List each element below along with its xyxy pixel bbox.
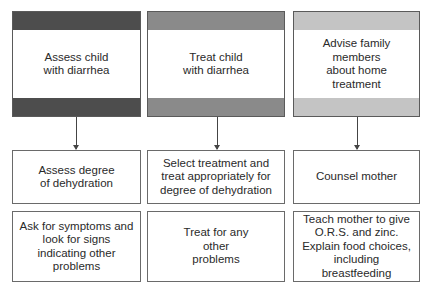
header-text: Treat child with diarrhea	[148, 30, 284, 98]
step-box-assess-dehydration: Assess degree of dehydration	[12, 150, 141, 204]
header-bottom-bar	[148, 98, 284, 116]
step-box-counsel-mother: Counsel mother	[293, 150, 420, 204]
step-box-select-treatment: Select treatment and treat appropriately…	[147, 150, 285, 204]
arrow-down	[76, 117, 77, 149]
header-bottom-bar	[294, 98, 419, 116]
header-top-bar	[148, 12, 284, 30]
header-top-bar	[294, 12, 419, 30]
header-top-bar	[13, 12, 140, 30]
header-box-advise: Advise family members about home treatme…	[293, 11, 420, 117]
arrow-down	[217, 117, 218, 149]
step-box-treat-other: Treat for any other problems	[147, 211, 285, 282]
arrow-down	[357, 117, 358, 149]
header-text: Advise family members about home treatme…	[294, 30, 419, 98]
header-box-treat: Treat child with diarrhea	[147, 11, 285, 117]
step-box-teach-mother: Teach mother to give O.R.S. and zinc. Ex…	[293, 211, 420, 282]
step-box-other-problems: Ask for symptoms and look for signs indi…	[12, 211, 141, 282]
header-bottom-bar	[13, 98, 140, 116]
header-box-assess: Assess child with diarrhea	[12, 11, 141, 117]
header-text: Assess child with diarrhea	[13, 30, 140, 98]
